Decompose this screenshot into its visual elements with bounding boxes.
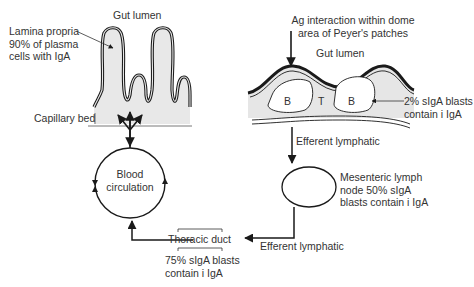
blasts-note-label: 2% sIgA blasts contain i IgA <box>404 95 473 120</box>
mesenteric-node-label: Mesenteric lymph node 50% sIgA blasts co… <box>340 171 428 209</box>
peyers-patch <box>248 66 414 128</box>
efferent-lymphatic-label-1: Efferent lymphatic <box>296 135 380 148</box>
lamina-propria-label: Lamina propria 90% of plasma cells with … <box>9 25 79 63</box>
follicle-b1: B <box>284 95 291 108</box>
capillary-bed-label: Capillary bed <box>34 112 95 125</box>
thoracic-duct-label: Thoracic duct <box>168 233 231 246</box>
efferent-lymphatic-label-2: Efferent lymphatic <box>260 240 344 253</box>
villi-tissue <box>88 28 192 126</box>
gut-lumen-label-left: Gut lumen <box>113 9 161 22</box>
ag-interaction-label: Ag interaction within dome area of Peyer… <box>278 14 428 39</box>
thoracic-note-label: 75% sIgA blasts contain i IgA <box>165 254 240 279</box>
blood-circulation-label: Blood circulation <box>100 168 160 193</box>
follicle-t: T <box>318 95 324 108</box>
gut-lumen-label-right: Gut lumen <box>316 47 364 60</box>
follicle-b2: B <box>348 95 355 108</box>
mesenteric-node <box>282 167 336 207</box>
